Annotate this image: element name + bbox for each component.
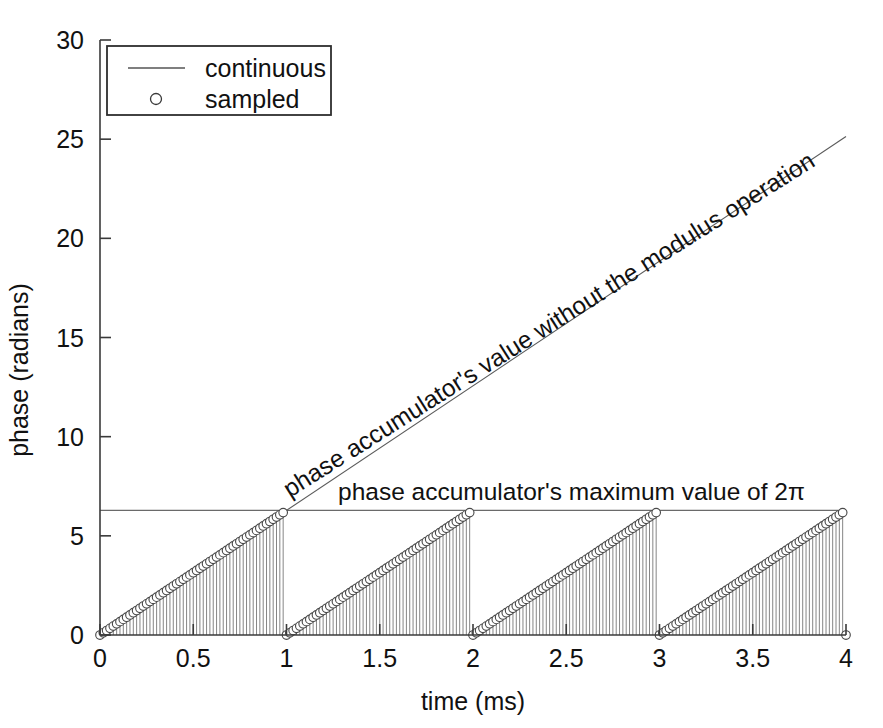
x-tick-label: 4 bbox=[839, 644, 853, 672]
y-tick-label: 25 bbox=[56, 125, 84, 153]
y-axis-tick-labels-group: 051015202530 bbox=[56, 26, 84, 649]
chart-canvas: 051015202530 00.511.522.533.54 time (ms)… bbox=[0, 0, 883, 728]
unwrapped-ramp-annotation: phase accumulator's value without the mo… bbox=[278, 147, 819, 503]
x-tick-label: 0 bbox=[93, 644, 107, 672]
y-tick-label: 0 bbox=[70, 621, 84, 649]
legend-circle-marker-icon bbox=[151, 94, 162, 105]
phase-accumulator-chart: 051015202530 00.511.522.533.54 time (ms)… bbox=[0, 0, 883, 728]
x-tick-label: 2 bbox=[466, 644, 480, 672]
x-tick-label: 0.5 bbox=[176, 644, 211, 672]
x-tick-label: 3 bbox=[653, 644, 667, 672]
x-axis-tick-labels-group: 00.511.522.533.54 bbox=[93, 644, 853, 672]
x-axis-title: time (ms) bbox=[421, 687, 525, 715]
x-tick-label: 3.5 bbox=[735, 644, 770, 672]
legend-label-sampled: sampled bbox=[205, 85, 300, 113]
y-tick-label: 30 bbox=[56, 26, 84, 54]
y-tick-label: 15 bbox=[56, 324, 84, 352]
x-tick-label: 1 bbox=[280, 644, 294, 672]
y-axis-ticks-group bbox=[100, 40, 111, 635]
sampled-markers-group bbox=[96, 508, 851, 639]
y-axis-title: phase (radians) bbox=[5, 283, 33, 457]
y-tick-label: 5 bbox=[70, 522, 84, 550]
max-value-annotation: phase accumulator's maximum value of 2π bbox=[338, 478, 805, 505]
axes-group bbox=[100, 40, 846, 635]
y-tick-label: 10 bbox=[56, 423, 84, 451]
sample-marker bbox=[652, 508, 661, 517]
x-tick-label: 1.5 bbox=[362, 644, 397, 672]
legend-label-continuous: continuous bbox=[205, 54, 326, 82]
stem-lines-group bbox=[100, 513, 843, 635]
x-axis-ticks-group bbox=[100, 624, 846, 635]
sample-marker bbox=[838, 508, 847, 517]
y-tick-label: 20 bbox=[56, 224, 84, 252]
sample-marker bbox=[279, 508, 288, 517]
sample-marker bbox=[465, 508, 474, 517]
legend: continuous sampled bbox=[107, 46, 331, 115]
x-tick-label: 2.5 bbox=[549, 644, 584, 672]
